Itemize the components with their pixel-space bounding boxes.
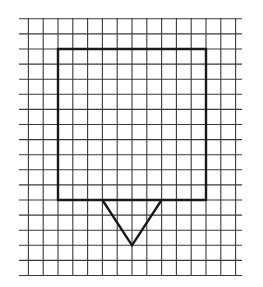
grid-diagram <box>0 0 263 287</box>
